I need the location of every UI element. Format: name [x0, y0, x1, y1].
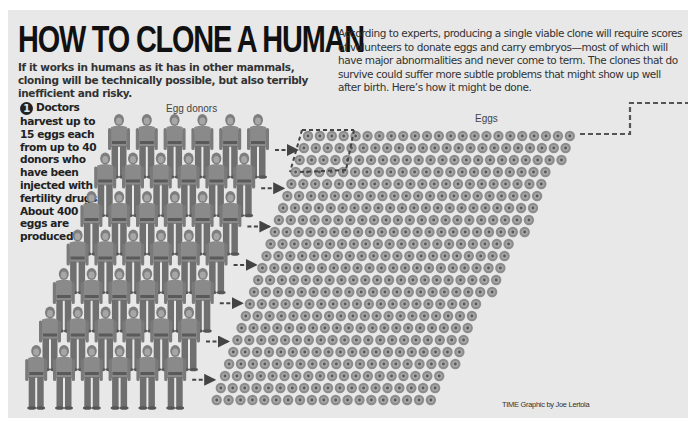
egg-icon: [417, 215, 427, 225]
egg-icon: [402, 359, 412, 369]
egg-icon: [505, 131, 515, 141]
egg-icon: [565, 131, 575, 141]
egg-icon: [471, 299, 481, 309]
egg-icon: [276, 347, 286, 357]
egg-icon: [379, 359, 389, 369]
egg-icon: [244, 371, 254, 381]
egg-icon: [295, 155, 305, 165]
egg-icon: [440, 215, 450, 225]
egg-icon: [473, 155, 483, 165]
egg-icon: [325, 239, 335, 249]
egg-icon: [378, 155, 388, 165]
egg-icon: [404, 251, 414, 261]
continue-path: [580, 103, 688, 134]
egg-icon: [532, 191, 542, 201]
egg-icon: [340, 263, 350, 273]
egg-icon: [430, 383, 440, 393]
egg-icon: [378, 395, 388, 405]
egg-icon: [287, 383, 297, 393]
egg-icon: [311, 383, 321, 393]
egg-icon: [417, 179, 427, 189]
egg-icon: [328, 299, 338, 309]
egg-icon: [556, 155, 566, 165]
egg-icon: [299, 383, 309, 393]
egg-icon: [451, 323, 461, 333]
egg-icon: [279, 371, 289, 381]
egg-icon: [456, 203, 466, 213]
egg-icon: [463, 287, 473, 297]
egg-icon: [449, 155, 459, 165]
egg-icon: [282, 227, 292, 237]
egg-icon: [392, 251, 402, 261]
egg-icon: [503, 239, 513, 249]
egg-icon: [294, 191, 304, 201]
egg-icon: [304, 335, 314, 345]
egg-icon: [332, 287, 342, 297]
egg-icon: [329, 227, 339, 237]
egg-icon: [424, 263, 434, 273]
egg-icon: [431, 311, 441, 321]
egg-icon: [402, 395, 412, 405]
egg-icon: [317, 263, 327, 273]
egg-icon: [467, 311, 477, 321]
egg-icon: [347, 347, 357, 357]
egg-icon: [323, 383, 333, 393]
egg-icon: [409, 167, 419, 177]
egg-icon: [289, 275, 299, 285]
egg-icon: [303, 371, 313, 381]
egg-icon: [298, 179, 308, 189]
egg-icon: [388, 299, 398, 309]
egg-icon: [309, 251, 319, 261]
egg-icon: [395, 311, 405, 321]
egg-icon: [493, 167, 503, 177]
egg-icon: [421, 167, 431, 177]
egg-icon: [339, 131, 349, 141]
egg-icon: [472, 227, 482, 237]
egg-icon: [424, 227, 434, 237]
egg-icon: [433, 167, 443, 177]
egg-icon: [394, 143, 404, 153]
egg-icon: [410, 131, 420, 141]
egg-icon: [228, 347, 238, 357]
egg-icon: [427, 323, 437, 333]
egg-icon: [335, 383, 345, 393]
egg-icon: [368, 251, 378, 261]
egg-icon: [284, 323, 294, 333]
egg-icon: [508, 191, 518, 201]
egg-icon: [318, 155, 328, 165]
egg-icon: [425, 191, 435, 201]
egg-icon: [345, 215, 355, 225]
egg-icon: [433, 203, 443, 213]
egg-icon: [326, 167, 336, 177]
egg-icon: [436, 263, 446, 273]
egg-icon: [484, 227, 494, 237]
egg-icon: [309, 215, 319, 225]
egg-icon: [426, 359, 436, 369]
egg-icon: [261, 251, 271, 261]
egg-icon: [343, 359, 353, 369]
egg-icon: [370, 143, 380, 153]
egg-icon: [418, 143, 428, 153]
egg-icon: [247, 395, 257, 405]
egg-icon: [475, 287, 485, 297]
egg-icon: [447, 299, 457, 309]
egg-icon: [520, 191, 530, 201]
egg-icon: [352, 299, 362, 309]
egg-icon: [382, 383, 392, 393]
egg-icon: [285, 251, 295, 261]
egg-icon: [488, 215, 498, 225]
egg-icon: [286, 215, 296, 225]
egg-icon: [447, 335, 457, 345]
egg-icon: [406, 383, 416, 393]
egg-icon: [307, 395, 317, 405]
egg-icon: [253, 275, 263, 285]
egg-icon: [337, 203, 347, 213]
egg-icon: [445, 167, 455, 177]
egg-icon: [500, 179, 510, 189]
egg-icon: [297, 251, 307, 261]
egg-icon: [365, 227, 375, 237]
egg-icon: [269, 299, 279, 309]
egg-icon: [220, 371, 230, 381]
egg-icon: [420, 239, 430, 249]
egg-icon: [323, 347, 333, 357]
